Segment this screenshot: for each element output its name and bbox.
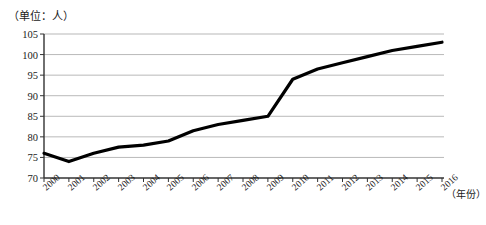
gridlines (44, 34, 444, 178)
data-series-line (44, 42, 442, 161)
axes (44, 34, 444, 178)
line-chart: （单位：人） 707580859095100105 20002001200220… (0, 0, 486, 225)
x-axis-title: （年份） (446, 186, 486, 201)
